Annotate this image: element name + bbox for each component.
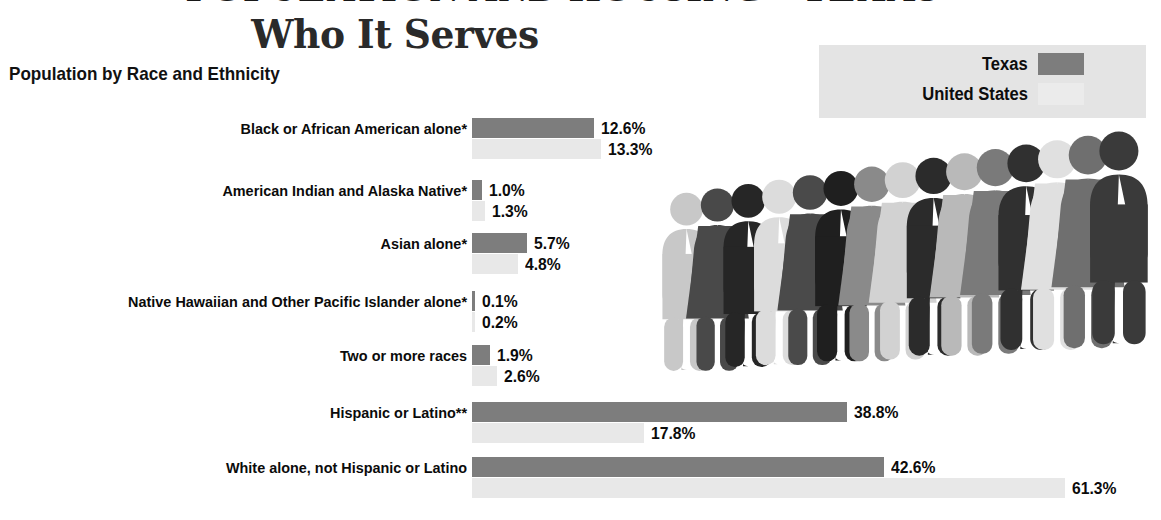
legend-item-united-states: United States [819,81,1084,107]
bar-row-texas: 1.0% [472,180,526,200]
bar-united-states [472,201,485,221]
bar-value-texas: 12.6% [601,119,645,137]
bar-row-texas: 1.9% [472,345,535,365]
bar-texas [472,345,490,365]
bar-value-united-states: 2.6% [504,367,540,385]
bar-value-texas: 42.6% [891,458,935,476]
bar-row-texas: 38.8% [472,402,901,422]
bar-value-united-states: 61.3% [1072,479,1116,497]
bar-united-states [472,478,1065,498]
category-label: Hispanic or Latino** [30,404,467,421]
legend-item-texas: Texas [819,51,1084,77]
page-title: Who It Serves [24,12,767,56]
bar-row-united-states: 2.6% [472,366,542,386]
bar-value-united-states: 4.8% [525,255,561,273]
bar-texas [472,402,847,422]
chart-category-group: American Indian and Alaska Native*1.0%1.… [0,180,1161,224]
legend-swatch-united-states [1038,83,1084,105]
bar-value-texas: 1.9% [497,346,533,364]
legend-label-texas: Texas [982,54,1028,75]
chart-category-group: Hispanic or Latino**38.8%17.8% [0,402,1161,446]
bar-row-united-states: 13.3% [472,139,654,159]
bar-value-united-states: 1.3% [492,202,528,220]
chart-category-group: Two or more races1.9%2.6% [0,345,1161,389]
bar-value-united-states: 13.3% [608,140,652,158]
section-subtitle: Population by Race and Ethnicity [9,63,280,85]
bar-texas [472,180,482,200]
bar-row-united-states: 17.8% [472,423,698,443]
bar-value-texas: 38.8% [854,403,898,421]
bar-row-texas: 0.1% [472,291,520,311]
legend-swatch-texas [1038,53,1084,75]
chart-category-group: Black or African American alone*12.6%13.… [0,118,1161,162]
bar-row-united-states: 61.3% [472,478,1119,498]
bar-united-states [472,139,601,159]
bar-row-texas: 12.6% [472,118,648,138]
chart-category-group: Asian alone*5.7%4.8% [0,233,1161,277]
population-bar-chart: Black or African American alone*12.6%13.… [0,105,1161,520]
category-label: Two or more races [30,347,467,364]
bar-row-texas: 5.7% [472,233,572,253]
bar-value-texas: 0.1% [482,292,518,310]
bar-texas [472,457,884,477]
bar-row-united-states: 0.2% [472,312,520,332]
bar-texas [472,233,527,253]
bar-value-united-states: 0.2% [482,313,518,331]
bar-united-states [472,312,475,332]
bar-united-states [472,423,644,443]
category-label: White alone, not Hispanic or Latino [30,459,467,476]
bar-united-states [472,254,518,274]
bar-row-united-states: 4.8% [472,254,563,274]
bar-texas [472,118,594,138]
category-label: American Indian and Alaska Native* [30,182,467,199]
bar-value-texas: 5.7% [534,234,570,252]
bar-row-united-states: 1.3% [472,201,529,221]
bar-value-texas: 1.0% [489,181,525,199]
bar-united-states [472,366,497,386]
bar-row-texas: 42.6% [472,457,938,477]
chart-category-group: White alone, not Hispanic or Latino42.6%… [0,457,1161,501]
bar-value-united-states: 17.8% [651,424,695,442]
category-label: Black or African American alone* [30,120,467,137]
chart-category-group: Native Hawaiian and Other Pacific Island… [0,291,1161,335]
category-label: Asian alone* [30,235,467,252]
legend-label-united-states: United States [922,84,1028,105]
bar-texas [472,291,475,311]
category-label: Native Hawaiian and Other Pacific Island… [30,293,467,310]
